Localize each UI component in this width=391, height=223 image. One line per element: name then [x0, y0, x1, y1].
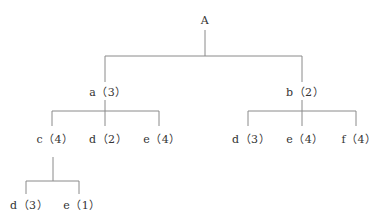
node-b-f: f（4）	[341, 130, 376, 146]
node-root: A	[201, 14, 209, 27]
node-a-d: d（2）	[89, 130, 127, 146]
node-b-d: d（3）	[232, 130, 270, 146]
node-a: a（3）	[89, 83, 127, 99]
tree-connectors	[0, 0, 391, 223]
node-c-d: d（3）	[10, 196, 48, 212]
node-a-c: c（4）	[36, 130, 73, 146]
node-b-e: e（4）	[286, 130, 324, 146]
node-b: b（2）	[286, 83, 324, 99]
node-a-e: e（4）	[143, 130, 181, 146]
node-c-e: e（1）	[63, 196, 101, 212]
